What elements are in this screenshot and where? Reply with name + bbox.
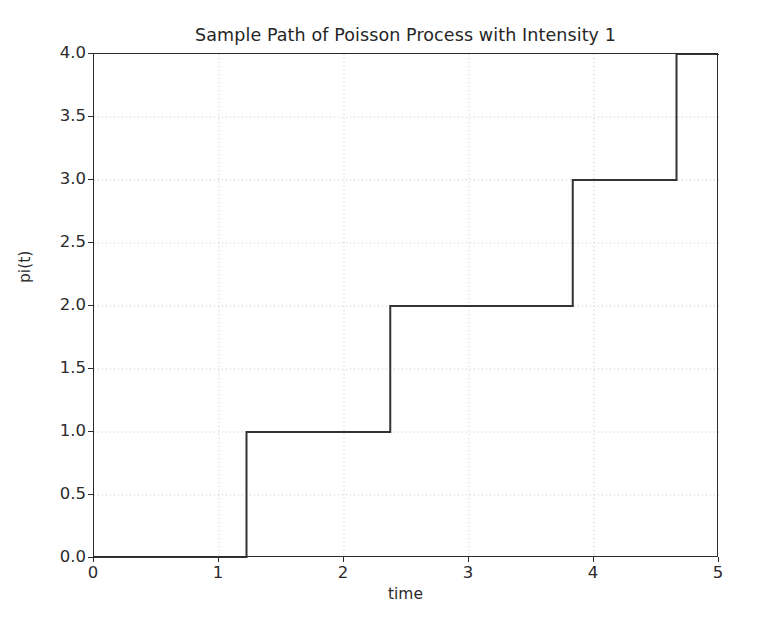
chart-title: Sample Path of Poisson Process with Inte… [93, 25, 718, 45]
y-tick-label: 1.0 [32, 421, 86, 440]
x-tick-label: 4 [573, 563, 613, 582]
y-tick-label: 4.0 [32, 43, 86, 62]
y-tick-mark [88, 494, 93, 495]
chart-figure: Sample Path of Poisson Process with Inte… [0, 0, 766, 628]
y-tick-label: 1.5 [32, 358, 86, 377]
plot-inner [94, 54, 717, 556]
y-tick-label: 3.0 [32, 169, 86, 188]
y-tick-label: 2.5 [32, 232, 86, 251]
y-tick-label: 2.0 [32, 295, 86, 314]
y-axis-label: pi(t) [16, 251, 34, 283]
y-tick-mark [88, 179, 93, 180]
x-tick-label: 2 [323, 563, 363, 582]
x-tick-mark [343, 557, 344, 562]
x-tick-label: 5 [698, 563, 738, 582]
x-tick-mark [468, 557, 469, 562]
y-tick-mark [88, 368, 93, 369]
y-tick-mark [88, 53, 93, 54]
x-tick-mark [93, 557, 94, 562]
x-tick-label: 3 [448, 563, 488, 582]
x-tick-label: 1 [198, 563, 238, 582]
y-tick-mark [88, 305, 93, 306]
y-tick-label: 3.5 [32, 106, 86, 125]
x-tick-mark [593, 557, 594, 562]
y-tick-mark [88, 116, 93, 117]
step-line [94, 54, 719, 558]
plot-area [93, 53, 718, 557]
y-tick-mark [88, 431, 93, 432]
x-tick-mark [218, 557, 219, 562]
x-tick-label: 0 [73, 563, 113, 582]
x-axis-label: time [93, 585, 718, 603]
y-tick-label: 0.5 [32, 484, 86, 503]
y-tick-mark [88, 242, 93, 243]
step-line-series [94, 54, 719, 558]
x-tick-mark [718, 557, 719, 562]
